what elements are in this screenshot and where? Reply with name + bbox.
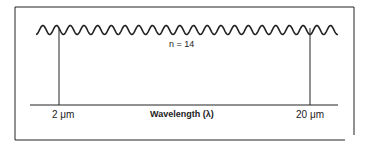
axis-label: Wavelength (λ): [150, 110, 214, 119]
wave-label: n = 14: [169, 40, 194, 49]
right-marker-label: 20 μm: [296, 110, 324, 120]
diagram-canvas: [0, 0, 370, 145]
wave-line: [36, 26, 338, 35]
left-marker-label: 2 μm: [52, 110, 74, 120]
